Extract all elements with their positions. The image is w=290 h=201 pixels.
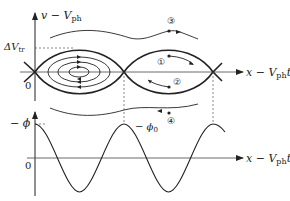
potential-axis-label: − ϕ — [10, 117, 31, 130]
bottom-position-axis-label: x − Vpht — [246, 152, 290, 166]
trapping-width-label: ΔVtr — [3, 41, 25, 54]
position-axis-label: x − Vpht — [246, 66, 290, 80]
top-panel: v − Vph x − Vpht 0 ΔVtr — [3, 9, 290, 126]
trajectory-marker-2: ② — [173, 77, 181, 87]
trajectory-marker-3: ③ — [167, 16, 175, 26]
bottom-panel: − ϕ x − Vpht 0 − ϕ0 — [10, 112, 290, 196]
origin-label-top: 0 — [25, 80, 31, 91]
trajectory-1 — [169, 56, 193, 64]
velocity-axis-label: v − Vph — [41, 9, 82, 23]
trajectory-marker-4: ④ — [167, 116, 175, 126]
phase-space-diagram: v − Vph x − Vpht 0 ΔVtr — [0, 0, 290, 201]
trajectory-marker-1: ① — [157, 57, 165, 67]
minimum-potential-label: − ϕ0 — [135, 121, 158, 134]
origin-label-bottom: 0 — [25, 160, 31, 171]
trajectory-3 — [50, 30, 198, 39]
